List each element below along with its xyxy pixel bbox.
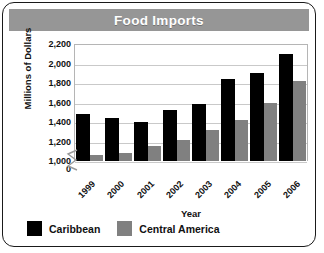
legend-label: Caribbean [49,223,100,235]
chart-legend: CaribbeanCentral America [27,221,230,236]
bar-group [133,45,162,161]
bar [192,104,206,161]
legend-label: Central America [139,223,219,235]
bar [235,120,249,161]
bar [148,146,162,161]
bar [293,81,307,161]
legend-item: Caribbean [27,221,100,236]
bar [206,130,220,161]
legend-swatch [117,221,132,236]
y-tick-label: 1,800 [31,79,71,88]
bar [177,140,191,161]
bar-groups [75,45,307,161]
x-axis-tick-labels: 19992000200120022003200420052006 [74,163,308,209]
chart-card: Food Imports Millions of Dollars 2,2002,… [2,2,316,247]
chart-title: Food Imports [114,13,204,28]
x-axis-title: Year [74,208,308,219]
bar-group [104,45,133,161]
x-tick-label: 2001 [135,165,170,200]
bar [264,103,278,161]
bar [90,155,104,161]
plot-area [74,44,308,161]
bar-group [278,45,307,161]
y-tick-label: 2,000 [31,60,71,69]
bar-group [191,45,220,161]
bar-group [249,45,278,161]
bar [250,73,264,161]
bar-group [162,45,191,161]
bar-group [220,45,249,161]
y-tick-label: 2,200 [31,40,71,49]
legend-item: Central America [117,221,219,236]
bar [105,118,119,161]
bar [221,79,235,161]
y-tick-label: 1,600 [31,99,71,108]
bar [279,54,293,161]
bar [134,122,148,161]
bar [163,110,177,161]
bar-group [75,45,104,161]
y-tick-label: 1,200 [31,138,71,147]
bar [119,153,133,161]
x-tick-label: 2005 [252,165,287,200]
legend-swatch [27,221,42,236]
y-tick-label: 1,400 [31,118,71,127]
